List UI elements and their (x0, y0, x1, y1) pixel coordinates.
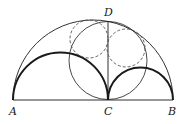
label-c: C (104, 105, 113, 118)
label-b: B (167, 105, 176, 118)
arbelos-diagram: A C B D (0, 0, 182, 124)
outer-semicircle (13, 20, 173, 100)
label-a: A (8, 105, 17, 118)
right-semicircle (108, 68, 173, 100)
left-semicircle (13, 53, 108, 100)
label-d: D (103, 6, 113, 19)
